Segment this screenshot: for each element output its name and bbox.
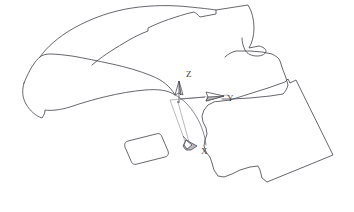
axis-y-label: Y [227,93,234,103]
axis-z-label: Z [186,69,192,79]
axis-x-label: X [201,146,208,156]
axis-origin-point [177,101,179,103]
cad-viewport[interactable]: Z Y X [0,0,354,212]
cad-wireframe-canvas: Z Y X [0,0,354,212]
viewport-background [0,0,354,212]
